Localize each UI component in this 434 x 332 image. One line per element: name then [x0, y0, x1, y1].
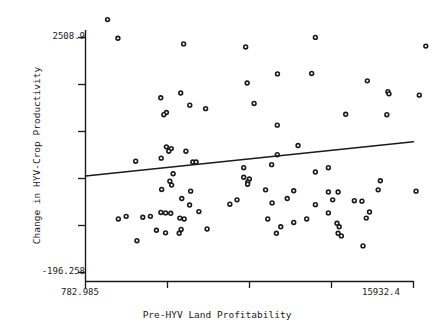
data-point	[376, 188, 380, 192]
data-point	[164, 231, 168, 235]
data-point	[414, 189, 418, 193]
data-point	[116, 217, 120, 221]
data-point	[106, 18, 110, 22]
data-point	[385, 113, 389, 117]
data-point	[378, 179, 382, 183]
data-point	[252, 102, 256, 106]
data-point	[339, 234, 343, 238]
data-point	[270, 201, 274, 205]
data-point	[167, 149, 171, 153]
data-point	[155, 228, 159, 232]
data-point	[159, 211, 163, 215]
data-point	[313, 170, 317, 174]
data-point	[235, 198, 239, 202]
y-axis-title: Change in HYV-Crop Productivity	[31, 36, 42, 276]
data-point	[182, 217, 186, 221]
data-point	[204, 107, 208, 111]
data-point	[189, 189, 193, 193]
data-point	[171, 172, 175, 176]
data-point	[266, 217, 270, 221]
data-point	[124, 214, 128, 218]
data-point	[141, 215, 145, 219]
data-point	[177, 231, 181, 235]
data-point	[228, 202, 232, 206]
data-point	[313, 36, 317, 40]
data-point	[326, 190, 330, 194]
data-point	[292, 221, 296, 225]
x-axis-tick-label-right: 15932.4	[362, 287, 400, 297]
data-point	[135, 239, 139, 243]
data-point	[326, 211, 330, 215]
data-point	[331, 198, 335, 202]
data-point	[360, 199, 364, 203]
data-point	[170, 183, 174, 187]
data-point	[194, 160, 198, 164]
x-axis-title: Pre-HYV Land Profitability	[0, 309, 434, 320]
data-point	[417, 93, 421, 97]
data-point	[116, 36, 120, 40]
data-point	[159, 96, 163, 100]
x-axis-tick-label-left: 782.985	[61, 287, 99, 297]
data-point	[169, 211, 173, 215]
data-point	[275, 123, 279, 127]
data-point	[197, 210, 201, 214]
data-point	[276, 72, 280, 76]
data-point	[134, 159, 138, 163]
data-point	[205, 227, 209, 231]
data-point	[188, 103, 192, 107]
data-point	[313, 203, 317, 207]
data-point	[368, 210, 372, 214]
data-point	[279, 225, 283, 229]
data-point	[188, 203, 192, 207]
data-point	[285, 197, 289, 201]
data-point	[162, 113, 166, 117]
data-point	[264, 188, 268, 192]
data-point	[270, 163, 274, 167]
scatter-data-points	[106, 18, 428, 248]
data-point	[242, 166, 246, 170]
data-point	[361, 244, 365, 248]
data-point	[387, 92, 391, 96]
data-point	[364, 216, 368, 220]
scatter-plot-figure: 2508.9 -196.258 782.985 15932.4 Pre-HYV …	[0, 0, 434, 332]
data-point	[148, 214, 152, 218]
data-point	[180, 197, 184, 201]
data-point	[160, 188, 164, 192]
data-point	[244, 45, 248, 49]
plot-canvas	[0, 0, 434, 332]
data-point	[326, 166, 330, 170]
data-point	[292, 189, 296, 193]
data-point	[246, 182, 250, 186]
y-axis-ticks	[78, 38, 85, 273]
data-point	[275, 231, 279, 235]
data-point	[424, 44, 428, 48]
data-point	[159, 156, 163, 160]
data-point	[165, 145, 169, 149]
data-point	[310, 72, 314, 76]
data-point	[184, 149, 188, 153]
data-point	[182, 42, 186, 46]
data-point	[164, 211, 168, 215]
data-point	[336, 190, 340, 194]
data-point	[179, 91, 183, 95]
y-axis-tick-label-top: 2508.9	[52, 31, 85, 41]
data-point	[296, 144, 300, 148]
data-point	[352, 199, 356, 203]
y-axis-tick-label-bottom: -196.258	[42, 266, 85, 276]
data-point	[178, 216, 182, 220]
data-point	[365, 79, 369, 83]
data-point	[305, 217, 309, 221]
data-point	[245, 81, 249, 85]
data-point	[337, 225, 341, 229]
data-point	[242, 175, 246, 179]
data-point	[344, 112, 348, 116]
